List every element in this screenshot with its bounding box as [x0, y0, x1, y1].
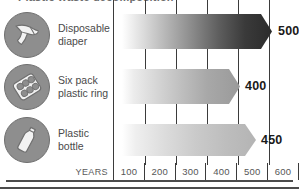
divider-rule-top: [6, 180, 293, 182]
bar-value-label: 400: [245, 79, 266, 93]
disposable-diaper-icon: [4, 12, 50, 58]
divider-rule-spacer: [0, 190, 299, 192]
bar-plastic-bottle: [122, 124, 256, 156]
chart-row: Disposable diaper: [0, 8, 110, 62]
axis-tick: 400: [205, 163, 236, 180]
chart-row: Plastic bottle: [0, 113, 89, 167]
infographic-root: Plastic waste decomposition Disposable d…: [0, 0, 299, 192]
chart-row: Six pack plastic ring: [0, 60, 108, 114]
axis-tick: 600: [267, 163, 299, 180]
axis-tick: 100: [113, 163, 144, 180]
gridline-100: [113, 0, 114, 165]
chart-row-label: Plastic bottle: [58, 127, 89, 153]
axis-tick: 500: [236, 163, 267, 180]
axis-tick: 200: [144, 163, 175, 180]
plot-area: 500 400 450: [113, 0, 299, 165]
axis-tick: 300: [175, 163, 206, 180]
bar-value-label: 450: [261, 133, 282, 147]
axis-tick-row: 100 200 300 400 500 600: [113, 163, 299, 180]
divider-rule-bottom: [0, 187, 299, 189]
chart-row-label: Six pack plastic ring: [58, 74, 108, 100]
bar-disposable-diaper: [122, 14, 272, 49]
bar-value-label: 500: [278, 24, 299, 38]
chart-row-label: Disposable diaper: [58, 22, 110, 48]
six-pack-plastic-ring-icon: [4, 64, 50, 110]
x-axis: YEARS 100 200 300 400 500 600: [0, 163, 299, 180]
axis-title: YEARS: [0, 163, 113, 180]
plastic-bottle-icon: [4, 117, 50, 163]
bar-six-pack-plastic-ring: [122, 69, 240, 104]
